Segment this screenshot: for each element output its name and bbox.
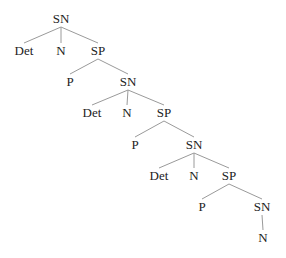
tree-node-det3: Det <box>150 168 169 183</box>
tree-edge-sn2-n2 <box>127 90 128 105</box>
tree-node-n4: N <box>258 230 268 245</box>
tree-edge-sp2-sn3 <box>164 121 194 137</box>
tree-node-sp1: SP <box>91 43 105 58</box>
tree-edge-sn2-det2 <box>92 90 128 105</box>
tree-node-n3: N <box>189 168 199 183</box>
tree-node-det1: Det <box>15 43 34 58</box>
tree-node-p2: P <box>131 137 138 152</box>
tree-node-sp3: SP <box>222 168 236 183</box>
tree-edge-sp3-sn4 <box>229 184 262 199</box>
tree-node-det2: Det <box>83 105 102 120</box>
tree-node-sn2: SN <box>120 74 137 89</box>
tree-node-labels: SNDetNSPPSNDetNSPPSNDetNSPPSNN <box>15 11 271 245</box>
tree-edge-sp1-p1 <box>70 59 98 74</box>
tree-edge-sn3-det3 <box>159 153 194 168</box>
tree-edge-sn3-sp3 <box>194 153 229 168</box>
tree-node-sp2: SP <box>157 105 171 120</box>
tree-node-n2: N <box>122 105 132 120</box>
tree-node-sn4: SN <box>254 199 271 214</box>
tree-edge-sn4-n4 <box>262 215 263 230</box>
tree-edge-sp1-sn2 <box>98 59 128 74</box>
tree-edge-sn1-det1 <box>24 27 61 43</box>
tree-edge-sn2-sp2 <box>128 90 164 105</box>
tree-edge-sp2-p2 <box>135 121 164 137</box>
tree-node-sn3: SN <box>186 137 203 152</box>
syntax-tree-diagram: SNDetNSPPSNDetNSPPSNDetNSPPSNN <box>0 0 286 258</box>
tree-node-p3: P <box>198 199 205 214</box>
tree-edge-sn1-sp1 <box>61 27 98 43</box>
tree-edge-sp3-p3 <box>202 184 229 199</box>
tree-node-n1: N <box>56 43 66 58</box>
tree-node-p1: P <box>66 74 73 89</box>
tree-node-sn1: SN <box>53 11 70 26</box>
